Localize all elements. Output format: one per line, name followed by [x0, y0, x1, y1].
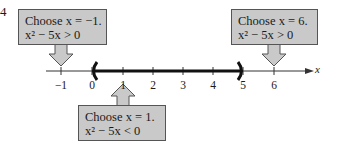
- tick-label: 6: [264, 79, 284, 91]
- tick-label: 0: [82, 79, 102, 91]
- tick-label: 3: [173, 79, 193, 91]
- callout-result: x² − 5x < 0: [85, 124, 159, 138]
- callout-left: Choose x = −1. x² − 5x > 0: [18, 9, 107, 45]
- callout-choice: Choose x = 6.: [238, 14, 311, 28]
- callout-result: x² − 5x > 0: [25, 28, 100, 42]
- axis-arrowhead-icon: [305, 68, 314, 74]
- callout-middle: Choose x = 1. x² − 5x < 0: [78, 105, 166, 141]
- callout-arrow-right: [262, 44, 286, 66]
- callout-arrow-left: [49, 44, 73, 66]
- tick-label: 5: [233, 79, 253, 91]
- callout-result: x² − 5x > 0: [238, 28, 311, 42]
- callout-right: Choose x = 6. x² − 5x > 0: [231, 9, 318, 45]
- tick-label: −1: [51, 79, 71, 91]
- axis-variable-label: x: [315, 63, 320, 75]
- tick-label: 2: [143, 79, 163, 91]
- callout-choice: Choose x = −1.: [25, 14, 100, 28]
- tick-label: 1: [113, 79, 133, 91]
- tick-label: 4: [203, 79, 223, 91]
- callout-choice: Choose x = 1.: [85, 110, 159, 124]
